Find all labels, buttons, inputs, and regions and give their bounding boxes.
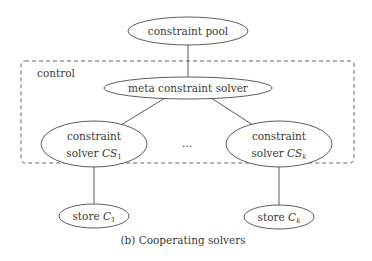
cooperating-solvers-diagram: control constraint pool meta constraint … xyxy=(0,0,372,261)
control-group-label: control xyxy=(37,67,76,79)
solverk-line1: constraint xyxy=(252,130,307,142)
figure-caption: (b) Cooperating solvers xyxy=(120,234,245,246)
node-meta-constraint-solver: meta constraint solver xyxy=(104,77,272,99)
edge-meta-solver1 xyxy=(121,98,165,125)
storek-label: store Ck xyxy=(258,211,301,225)
solverk-line2: solver CSk xyxy=(251,147,306,161)
node-solver-cs1: constraint solver CS1 xyxy=(41,121,147,167)
ellipsis-more-solvers: … xyxy=(182,137,193,149)
solver1-line2: solver CS1 xyxy=(66,147,121,161)
store1-label: store C1 xyxy=(72,210,115,224)
node-store-ck: store Ck xyxy=(244,205,314,229)
constraint-pool-label: constraint pool xyxy=(148,25,229,37)
solver1-line1: constraint xyxy=(67,130,122,142)
edge-meta-solverk xyxy=(211,98,253,125)
node-solver-csk: constraint solver CSk xyxy=(226,121,332,167)
meta-solver-label: meta constraint solver xyxy=(128,82,249,94)
node-constraint-pool: constraint pool xyxy=(128,17,248,45)
node-store-c1: store C1 xyxy=(59,204,129,228)
